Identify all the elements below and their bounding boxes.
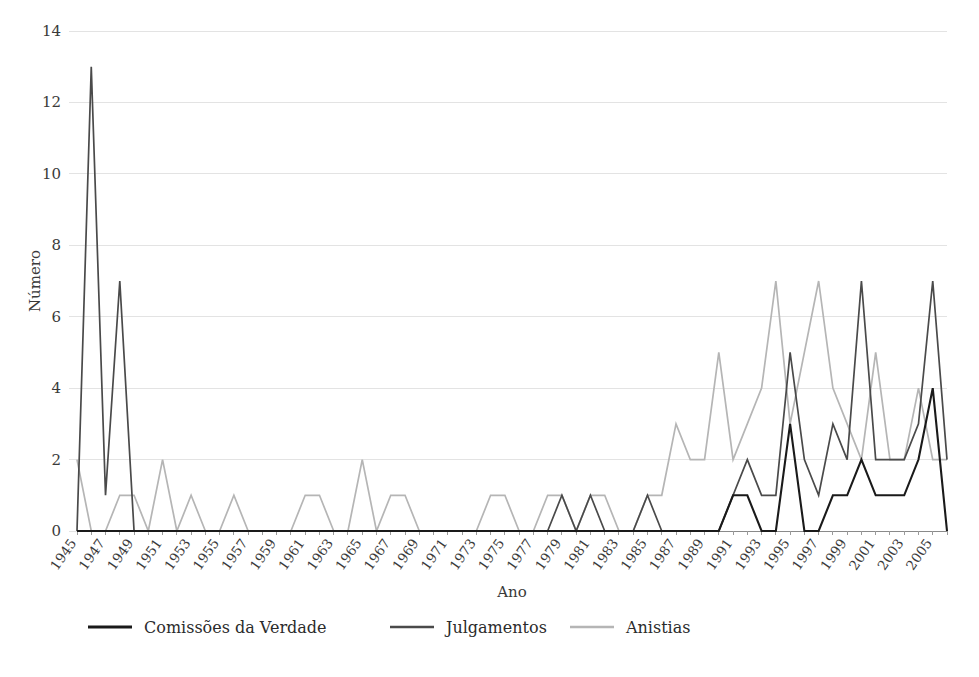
x-tick-label: 1969 <box>389 536 422 573</box>
legend-group: Comissões da VerdadeJulgamentosAnistias <box>88 618 690 637</box>
x-tick-label: 2005 <box>902 536 935 573</box>
x-tick-label: 1991 <box>703 536 736 573</box>
x-tick-label: 1955 <box>189 536 222 573</box>
x-tick-label: 1945 <box>47 536 80 573</box>
x-tick-label: 1947 <box>75 536 108 573</box>
y-tick-label: 14 <box>42 22 61 40</box>
y-tick-label: 12 <box>42 93 61 111</box>
data-series-group <box>77 67 947 531</box>
x-tick-label: 1957 <box>218 536 251 573</box>
x-tick-label: 1961 <box>275 536 308 573</box>
legend-label-3: Anistias <box>625 618 690 637</box>
series-line-julgamentos <box>77 67 947 531</box>
x-tick-label: 1981 <box>560 536 593 573</box>
x-tick-label: 1987 <box>646 536 679 573</box>
x-tick-label: 1971 <box>417 536 450 573</box>
x-tick-label: 1967 <box>360 536 393 573</box>
x-tick-label: 1997 <box>788 536 821 573</box>
gridlines-group <box>77 31 947 460</box>
x-tick-label: 1975 <box>475 536 508 573</box>
x-tick-label: 1949 <box>104 536 137 573</box>
y-tick-label: 0 <box>51 522 61 540</box>
y-tick-label: 2 <box>51 451 61 469</box>
y-axis-title: Número <box>26 250 44 312</box>
x-tick-label: 2001 <box>845 536 878 573</box>
legend-label-1: Comissões da Verdade <box>144 618 327 637</box>
x-tick-label: 2003 <box>874 536 907 573</box>
x-tick-label: 1985 <box>617 536 650 573</box>
x-tick-label: 1973 <box>446 536 479 573</box>
x-tick-label: 1951 <box>132 536 165 573</box>
y-tick-label: 8 <box>51 236 61 254</box>
y-tick-label: 4 <box>51 379 61 397</box>
x-tick-label: 1965 <box>332 536 365 573</box>
x-tick-label: 1999 <box>817 536 850 573</box>
x-tick-label: 1993 <box>731 536 764 573</box>
x-tick-label: 1959 <box>246 536 279 573</box>
x-tick-label: 1983 <box>589 536 622 573</box>
x-tick-label: 1989 <box>674 536 707 573</box>
y-tick-label: 10 <box>42 165 61 183</box>
series-line-anistias <box>77 281 947 531</box>
x-tick-label: 1963 <box>303 536 336 573</box>
chart-container: 02468101214 1945194719491951195319551957… <box>0 0 979 677</box>
x-tick-labels-group: 1945194719491951195319551957195919611963… <box>47 536 936 573</box>
y-tick-labels-group: 02468101214 <box>42 22 61 540</box>
x-tick-label: 1977 <box>503 536 536 573</box>
line-chart-svg: 02468101214 1945194719491951195319551957… <box>0 0 979 677</box>
x-tick-label: 1979 <box>532 536 565 573</box>
y-tick-label: 6 <box>51 308 61 326</box>
x-tick-label: 1995 <box>760 536 793 573</box>
axes-group <box>69 31 947 531</box>
legend-label-2: Julgamentos <box>444 618 547 637</box>
x-axis-title: Ano <box>496 583 527 601</box>
x-tick-label: 1953 <box>161 536 194 573</box>
